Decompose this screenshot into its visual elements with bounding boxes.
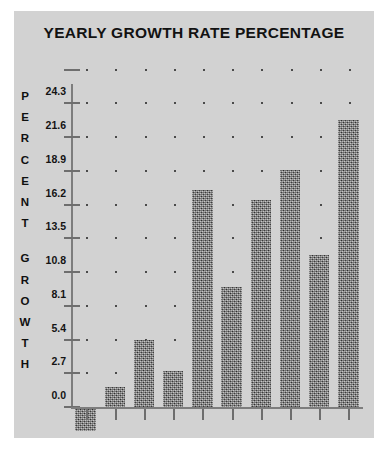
y-tick-label: 0.0: [32, 389, 66, 401]
grid-dot: [115, 339, 117, 341]
grid-dot: [145, 102, 147, 104]
grid-dot: [291, 102, 293, 104]
grid-dot: [86, 204, 88, 206]
grid-dot: [174, 271, 176, 273]
grid-dot: [115, 372, 117, 374]
y-tick-mark: [64, 305, 80, 307]
grid-dot: [115, 170, 117, 172]
bar: [105, 387, 125, 407]
grid-dot: [86, 69, 88, 71]
grid-dot: [174, 305, 176, 307]
grid-dot: [232, 237, 234, 239]
y-tick-mark: [64, 69, 80, 71]
grid-dot: [261, 69, 263, 71]
y-tick-label: 13.5: [32, 220, 66, 232]
grid-dot: [86, 237, 88, 239]
y-tick-mark: [64, 372, 80, 374]
y-axis-title-letter: T: [16, 333, 34, 354]
grid-dot: [145, 204, 147, 206]
grid-dot: [291, 136, 293, 138]
grid-dot: [115, 69, 117, 71]
grid-dot: [145, 170, 147, 172]
y-tick-label: 10.8: [32, 254, 66, 266]
grid-dot: [145, 305, 147, 307]
x-tick-mark: [86, 409, 88, 420]
grid-dot: [115, 136, 117, 138]
y-tick-mark: [64, 271, 80, 273]
bar: [221, 287, 241, 407]
grid-dot: [115, 102, 117, 104]
y-tick-mark: [64, 237, 80, 239]
grid-dot: [320, 204, 322, 206]
bar: [251, 200, 271, 408]
y-axis-title-letter: R: [16, 128, 34, 149]
y-tick-label: 8.1: [32, 288, 66, 300]
x-tick-mark: [115, 409, 117, 420]
grid-dot: [232, 69, 234, 71]
grid-dot: [320, 102, 322, 104]
grid-dot: [174, 102, 176, 104]
grid-dot: [145, 271, 147, 273]
grid-dot: [203, 136, 205, 138]
grid-dot: [174, 204, 176, 206]
y-tick-mark: [64, 102, 80, 104]
grid-dot: [174, 339, 176, 341]
grid-dot: [232, 102, 234, 104]
y-tick-mark: [64, 170, 80, 172]
grid-dot: [261, 102, 263, 104]
bar: [192, 190, 212, 408]
x-tick-mark: [232, 409, 234, 420]
y-tick-mark: [64, 136, 80, 138]
y-tick-mark: [64, 339, 80, 341]
grid-dot: [145, 237, 147, 239]
grid-dot: [320, 170, 322, 172]
grid-dot: [86, 339, 88, 341]
chart-title: YEARLY GROWTH RATE PERCENTAGE: [14, 24, 374, 42]
grid-dot: [115, 237, 117, 239]
grid-dot: [320, 69, 322, 71]
grid-dot: [203, 69, 205, 71]
grid-dot: [86, 305, 88, 307]
plot-area: 0.02.75.48.110.813.516.218.921.624.3: [71, 84, 363, 409]
grid-dot: [174, 136, 176, 138]
grid-dot: [115, 271, 117, 273]
y-tick-label: 16.2: [32, 187, 66, 199]
y-tick-label: 21.6: [32, 119, 66, 131]
y-axis-line: [71, 84, 73, 409]
y-tick-label: 24.3: [32, 85, 66, 97]
grid-dot: [349, 69, 351, 71]
grid-dot: [261, 136, 263, 138]
grid-dot: [174, 69, 176, 71]
grid-dot: [86, 372, 88, 374]
grid-dot: [86, 170, 88, 172]
grid-dot: [145, 69, 147, 71]
y-tick-mark: [64, 204, 80, 206]
y-tick-label: 5.4: [32, 322, 66, 334]
bar: [309, 255, 329, 408]
x-tick-mark: [173, 409, 175, 420]
grid-dot: [115, 305, 117, 307]
grid-dot: [232, 271, 234, 273]
grid-dot: [320, 136, 322, 138]
y-tick-label: 2.7: [32, 355, 66, 367]
grid-dot: [174, 170, 176, 172]
x-tick-mark: [144, 409, 146, 420]
x-tick-mark: [261, 409, 263, 420]
grid-dot: [86, 136, 88, 138]
grid-dot: [86, 271, 88, 273]
grid-dot: [232, 136, 234, 138]
grid-dot: [320, 237, 322, 239]
x-tick-mark: [290, 409, 292, 420]
grid-dot: [232, 170, 234, 172]
grid-dot: [145, 136, 147, 138]
grid-dot: [291, 69, 293, 71]
y-tick-label: 18.9: [32, 153, 66, 165]
grid-dot: [261, 170, 263, 172]
grid-dot: [349, 102, 351, 104]
grid-dot: [203, 102, 205, 104]
x-tick-mark: [202, 409, 204, 420]
bar: [280, 170, 300, 408]
bar: [163, 371, 183, 407]
x-tick-mark: [348, 409, 350, 420]
bar: [134, 340, 154, 408]
